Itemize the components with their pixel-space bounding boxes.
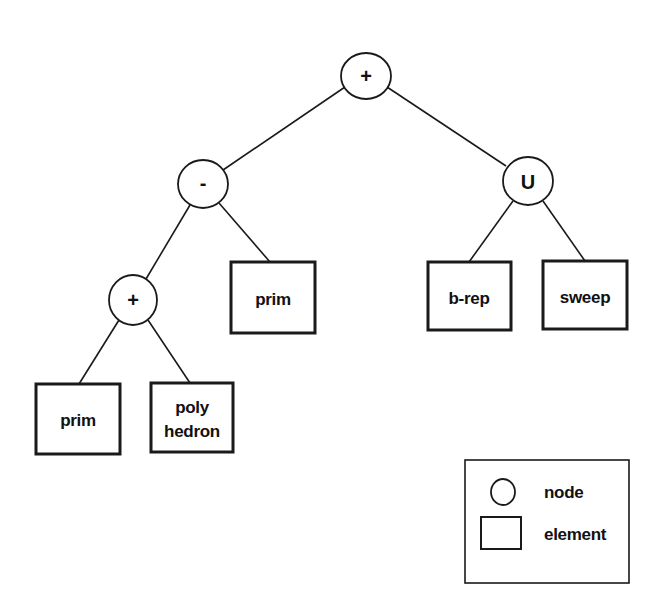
edge-root-minus [223, 87, 345, 170]
edge-union-sweep [543, 201, 585, 261]
element-prim-low-label: prim [60, 411, 96, 430]
element-prim-mid: prim [231, 262, 315, 333]
csg-tree-diagram: + - U + prim b-rep sweep prim poly hedro… [0, 0, 667, 616]
node-root-label: + [360, 65, 372, 87]
edge-root-union [387, 87, 506, 166]
element-prim-mid-label: prim [255, 290, 291, 309]
legend: node element [465, 460, 629, 583]
element-brep: b-rep [428, 262, 511, 330]
edge-union-brep [469, 201, 513, 262]
element-polyhedron-label-line1: poly [175, 398, 210, 417]
element-box-icon [151, 383, 233, 452]
legend-element-label: element [544, 525, 607, 544]
element-brep-label: b-rep [448, 289, 489, 308]
node-union: U [503, 157, 553, 205]
node-union-label: U [521, 171, 535, 193]
element-sweep-label: sweep [560, 288, 610, 307]
node-minus-label: - [200, 172, 207, 194]
legend-node-circle-icon [491, 479, 515, 505]
node-root: + [341, 53, 391, 99]
element-polyhedron-label-line2: hedron [164, 422, 220, 441]
element-prim-low: prim [36, 384, 120, 454]
node-minus: - [178, 160, 228, 208]
legend-element-box-icon [481, 517, 521, 549]
tree-edges [79, 87, 585, 384]
element-polyhedron: poly hedron [151, 383, 233, 452]
node-plus-lower-label: + [127, 289, 139, 311]
element-sweep: sweep [543, 261, 627, 329]
edge-plus-prim [79, 320, 119, 384]
edge-minus-plus [146, 205, 190, 279]
legend-node-label: node [544, 483, 583, 502]
edge-plus-polyhedron [148, 320, 190, 383]
edge-minus-prim [219, 203, 270, 262]
node-plus-lower: + [109, 275, 157, 325]
